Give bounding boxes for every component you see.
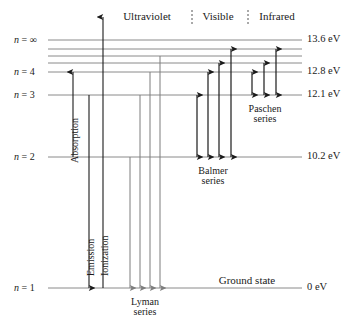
diagram-canvas	[0, 0, 344, 326]
paschen-series-label: Paschenseries	[249, 104, 282, 124]
level-label-n-4: n = 4	[14, 67, 35, 77]
energy-label-n-2: 10.2 eV	[307, 151, 340, 162]
band-label-infrared: Infrared	[259, 11, 294, 22]
energy-label-n-1: 0 eV	[307, 282, 327, 293]
energy-level-diagram: n = ∞13.6 eVn = 412.8 eVn = 312.1 eVn = …	[0, 0, 344, 326]
process-label-ionization: Ionization	[100, 235, 110, 276]
level-label-n-1: n = 1	[14, 283, 35, 293]
balmer-series-label: Balmerseries	[198, 166, 227, 186]
energy-label-n-infinity: 13.6 eV	[307, 34, 340, 45]
energy-label-n-4: 12.8 eV	[307, 66, 340, 77]
energy-label-n-3: 12.1 eV	[307, 89, 340, 100]
band-label-visible: Visible	[202, 11, 233, 22]
level-label-n-infinity: n = ∞	[14, 35, 37, 45]
process-label-emission: Emission	[86, 239, 96, 276]
ground-state-label: Ground state	[219, 275, 276, 286]
process-label-absorption: Absorption	[70, 118, 80, 163]
band-label-ultraviolet: Ultraviolet	[123, 11, 171, 22]
level-label-n-2: n = 2	[14, 152, 35, 162]
level-label-n-3: n = 3	[14, 90, 35, 100]
lyman-series-label: Lymanseries	[131, 297, 159, 317]
